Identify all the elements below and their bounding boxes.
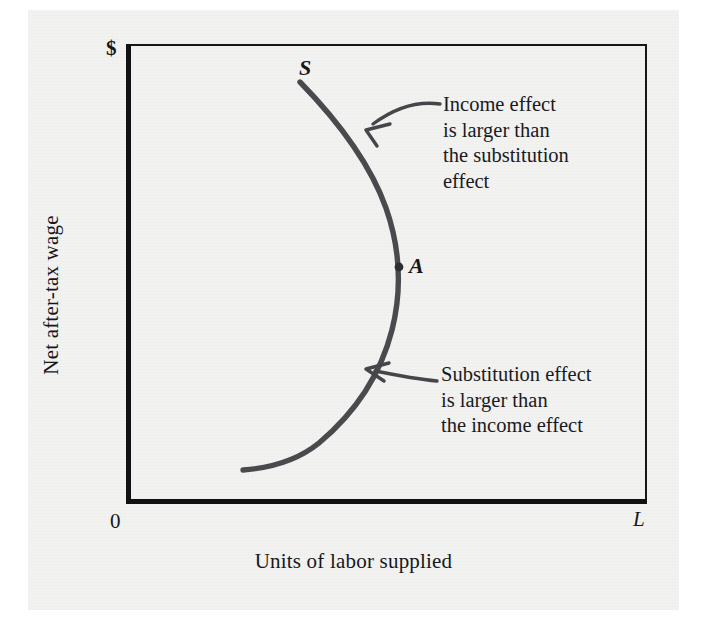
figure-page: $ S A 0 L Units of labor supplied Net af… [0,0,707,629]
substitution-effect-annotation: Substitution effect is larger than the i… [441,362,592,439]
income-effect-arrow-shaft [373,103,440,124]
income-effect-annotation: Income effect is larger than the substit… [443,92,569,194]
chart-vector-layer [0,0,707,629]
income-effect-line-3: the substitution [443,143,569,169]
income-effect-line-4: effect [443,169,569,195]
origin-label: 0 [110,511,121,532]
y-axis-title-container: Net after-tax wage [36,170,66,420]
supply-curve-label: S [299,57,311,79]
substitution-effect-line-2: is larger than [441,388,592,414]
income-effect-arrowhead [366,124,390,146]
substitution-effect-line-1: Substitution effect [441,362,592,388]
y-axis-unit-label: $ [106,38,117,59]
point-a-marker [395,263,404,272]
x-axis-title: Units of labor supplied [0,551,707,572]
y-axis-title: Net after-tax wage [39,215,64,374]
point-a-label: A [409,255,424,277]
income-effect-line-1: Income effect [443,92,569,118]
x-axis-max-label: L [633,509,645,530]
income-effect-line-2: is larger than [443,118,569,144]
substitution-effect-line-3: the income effect [441,413,592,439]
